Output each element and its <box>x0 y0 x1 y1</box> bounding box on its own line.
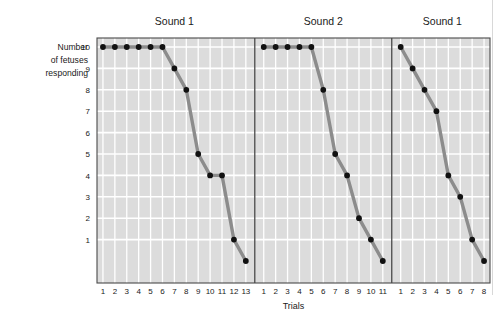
plot-background-layer <box>97 38 490 283</box>
x-axis-tick-label: 10 <box>206 287 215 296</box>
data-point-marker <box>219 173 225 179</box>
data-point-marker <box>285 44 291 50</box>
x-axis-tick-label: 6 <box>321 287 326 296</box>
x-axis-tick-label: 11 <box>218 287 227 296</box>
data-point-marker <box>261 44 267 50</box>
data-point-marker <box>136 44 142 50</box>
x-axis-tick-label: 7 <box>172 287 177 296</box>
x-axis-tick-label: 6 <box>160 287 165 296</box>
data-point-marker <box>320 87 326 93</box>
y-axis-title-line-2: of fetuses <box>51 55 88 65</box>
x-axis-tick-label: 3 <box>422 287 427 296</box>
x-axis-tick-label: 1 <box>262 287 267 296</box>
data-point-marker <box>243 258 249 264</box>
x-axis-tick-label: 5 <box>446 287 451 296</box>
plot-area-background <box>97 38 490 283</box>
x-axis-tick-label: 13 <box>241 287 250 296</box>
y-axis-tick-label: 7 <box>86 107 91 116</box>
x-axis-tick-label: 9 <box>357 287 362 296</box>
x-axis-tick-label: 7 <box>470 287 475 296</box>
y-axis-tick-label: 8 <box>86 86 91 95</box>
x-axis-tick-label: 4 <box>297 287 302 296</box>
y-axis-tick-label: 1 <box>86 236 91 245</box>
y-axis-tick-label: 2 <box>86 214 91 223</box>
data-point-marker <box>112 44 118 50</box>
x-axis-title: Trials <box>283 301 305 311</box>
data-point-marker <box>308 44 314 50</box>
data-point-marker <box>148 44 154 50</box>
x-axis-tick-label: 11 <box>379 287 388 296</box>
data-point-marker <box>481 258 487 264</box>
data-point-marker <box>231 237 237 243</box>
x-axis-tick-label: 6 <box>458 287 463 296</box>
data-point-marker <box>124 44 130 50</box>
x-axis-tick-label: 2 <box>273 287 278 296</box>
data-point-marker <box>368 237 374 243</box>
x-axis-tick-label: 5 <box>309 287 314 296</box>
data-point-marker <box>398 44 404 50</box>
x-axis-tick-label: 3 <box>125 287 130 296</box>
data-point-marker <box>445 173 451 179</box>
y-axis-tick-label: 6 <box>86 129 91 138</box>
data-point-marker <box>422 87 428 93</box>
x-axis-tick-label: 1 <box>101 287 106 296</box>
data-point-marker <box>332 151 338 157</box>
y-axis-title-line-1: Number <box>57 42 88 52</box>
x-axis-tick-label: 3 <box>285 287 290 296</box>
data-point-marker <box>160 44 166 50</box>
y-axis-tick-label: 4 <box>86 172 91 181</box>
panel-title-layer: Sound 1Sound 2Sound 1 <box>155 15 462 27</box>
x-axis-tick-label: 2 <box>113 287 118 296</box>
y-axis-tick-label: 3 <box>86 193 91 202</box>
data-point-marker <box>183 87 189 93</box>
data-point-marker <box>457 194 463 200</box>
data-point-marker <box>380 258 386 264</box>
x-axis-tick-label: 4 <box>136 287 141 296</box>
x-axis-tick-label: 9 <box>196 287 201 296</box>
x-axis-tick-label: 8 <box>482 287 487 296</box>
panel-title-1: Sound 1 <box>155 15 194 27</box>
x-axis-tick-label: 4 <box>434 287 439 296</box>
data-point-marker <box>273 44 279 50</box>
x-axis-tick-label: 8 <box>345 287 350 296</box>
fetus-response-line-chart: 1234567891012345678910111213123456789101… <box>0 0 503 317</box>
x-axis-tick-label: 2 <box>410 287 415 296</box>
data-point-marker <box>356 215 362 221</box>
data-point-marker <box>410 66 416 72</box>
data-point-marker <box>469 237 475 243</box>
x-axis-tick-label: 5 <box>148 287 153 296</box>
x-axis-tick-label: 7 <box>333 287 338 296</box>
data-point-marker <box>344 173 350 179</box>
data-point-marker <box>434 108 440 114</box>
page-edge-line <box>492 0 493 295</box>
x-axis-tick-label: 8 <box>184 287 189 296</box>
figure-container: 1234567891012345678910111213123456789101… <box>0 0 503 317</box>
panel-title-2: Sound 2 <box>304 15 343 27</box>
data-point-marker <box>100 44 106 50</box>
x-axis-tick-label: 1 <box>398 287 403 296</box>
data-point-marker <box>171 66 177 72</box>
x-axis-tick-label: 12 <box>229 287 238 296</box>
data-point-marker <box>297 44 303 50</box>
x-axis-tick-label: 10 <box>366 287 375 296</box>
y-axis-tick-label: 5 <box>86 150 91 159</box>
panel-title-3: Sound 1 <box>423 15 462 27</box>
data-point-marker <box>195 151 201 157</box>
data-point-marker <box>207 173 213 179</box>
y-axis-title-line-3: responding <box>45 68 88 78</box>
